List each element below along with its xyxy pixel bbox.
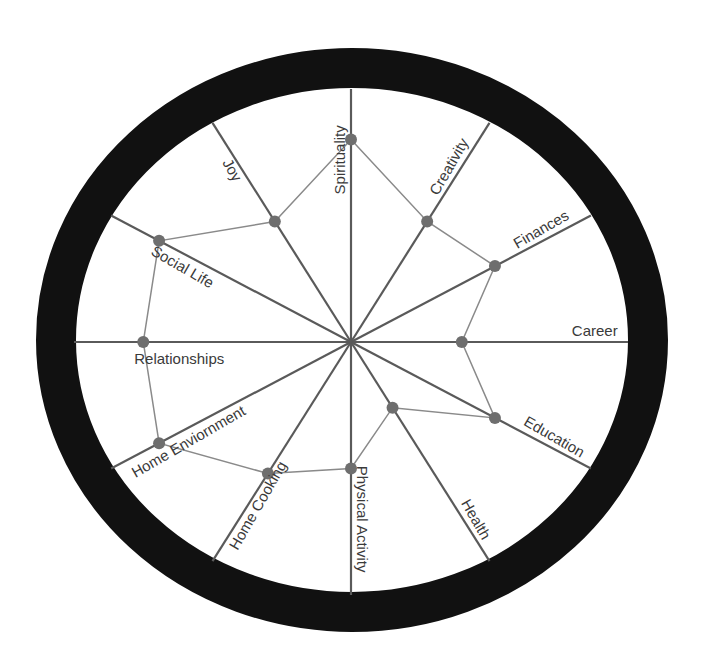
label-finances: Finances (510, 206, 571, 251)
label-career: Career (572, 322, 618, 339)
data-point-relationships (137, 336, 149, 348)
data-point-creativity (421, 215, 433, 227)
label-relationships: Relationships (134, 350, 224, 367)
spoke-creativity (351, 123, 490, 342)
data-point-joy (269, 215, 281, 227)
spoke-education (351, 342, 591, 469)
spoke-finances (351, 216, 591, 343)
spoke-social-life (111, 216, 351, 343)
data-point-career (456, 336, 468, 348)
data-point-education (489, 412, 501, 424)
label-home-cooking: Home Cooking (225, 458, 289, 552)
data-point-health (387, 402, 399, 414)
spoke-home-cooking (213, 342, 352, 561)
label-home-enviornment: Home Enviornment (128, 401, 248, 480)
label-physical-activity: Physical Activity (354, 466, 371, 573)
data-point-finances (489, 260, 501, 272)
wheel-of-life-chart: SpiritualityCreativityFinancesCareerEduc… (0, 0, 704, 668)
category-labels: SpiritualityCreativityFinancesCareerEduc… (128, 125, 617, 573)
label-spirituality: Spirituality (331, 125, 348, 195)
label-joy: Joy (219, 156, 246, 185)
